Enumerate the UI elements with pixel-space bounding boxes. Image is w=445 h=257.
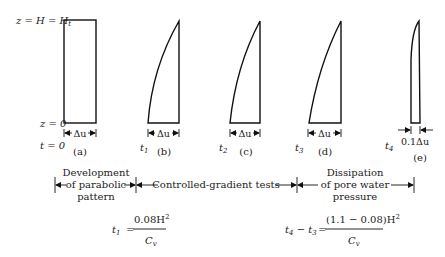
svg-text:Controlled-gradient tests: Controlled-gradient tests [152,179,280,190]
svg-text:(1.1 − 0.08)H2: (1.1 − 0.08)H2 [326,213,400,225]
time-label: t4 [385,140,394,153]
width-label: 0.1Δu [401,136,429,147]
panel-label: (a) [73,146,87,157]
panel-a: Δu (a) [64,20,96,157]
bottom-label: z = 0 [39,118,67,129]
panel-label: (d) [318,146,332,157]
svg-text:t4 − t3: t4 − t3 [285,224,317,237]
svg-text:pattern: pattern [77,191,115,202]
svg-text:=: = [126,224,134,235]
parabolic-curve [148,21,179,123]
time-label: t3 [295,142,304,155]
svg-text:Dissipation: Dissipation [327,167,384,178]
time-zero-label: t = 0 [40,140,66,151]
width-label: Δu [239,128,252,139]
parabolic-curve [230,21,260,123]
svg-text:pressure: pressure [333,191,378,202]
thin-parabolic-curve [411,21,420,123]
width-label: Δu [157,128,170,139]
phase-development: Development of parabolic pattern [63,167,130,202]
svg-text:0.08H2: 0.08H2 [134,213,169,225]
width-label: Δu [74,128,87,139]
consolidation-diagram: z = H = Ht z = 0 t = 0 Δu (a) Δu t1 (b) … [0,0,445,257]
svg-text:Cv: Cv [145,235,157,248]
time-label: t1 [140,142,149,155]
top-label: z = H = Ht [15,15,71,28]
panel-c: Δu t2 (c) [219,21,260,157]
time-label: t2 [219,142,228,155]
parabolic-curve [309,21,341,123]
svg-text:Cv: Cv [348,235,360,248]
svg-text:of pore water: of pore water [321,179,390,190]
axis-labels: z = H = Ht z = 0 t = 0 [15,15,71,151]
equation-t4-t3: t4 − t3 = (1.1 − 0.08)H2 Cv [285,213,400,248]
width-label: Δu [318,128,331,139]
panel-label: (e) [413,152,427,163]
svg-text:of parabolic: of parabolic [66,179,127,190]
pressure-distribution-rectangle [64,20,96,123]
panel-d: Δu t3 (d) [295,21,341,157]
panel-b: Δu t1 (b) [140,21,179,157]
panel-label: (b) [157,146,171,157]
panel-e: 0.1Δu t4 (e) [385,21,433,163]
panel-label: (c) [239,146,253,157]
svg-text:t1: t1 [112,224,121,237]
phase-controlled-gradient: Controlled-gradient tests [152,179,280,190]
phase-timeline: Development of parabolic pattern Control… [55,167,414,202]
svg-text:Development: Development [63,167,130,178]
equation-t1: t1 = 0.08H2 Cv [112,213,169,248]
svg-text:=: = [318,224,326,235]
phase-dissipation: Dissipation of pore water pressure [321,167,390,202]
